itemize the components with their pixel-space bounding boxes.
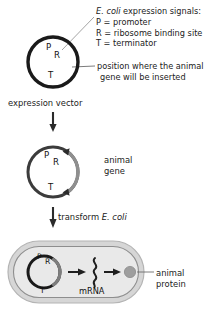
- mrna-label: mRNA: [79, 286, 104, 296]
- expression-vector-diagram: E. coli expression signals: P = promoter…: [0, 0, 207, 320]
- transform-step-label: transform E. coli: [58, 212, 127, 222]
- stage2-label-promoter: P: [44, 150, 49, 160]
- transform-verb: transform: [58, 212, 102, 222]
- transform-species: E. coli: [102, 212, 127, 222]
- stage1-label-ribosome-binding-site: R: [54, 50, 60, 60]
- stage2-label-ribosome-binding-site: R: [53, 157, 59, 167]
- animal-gene-arc: [66, 151, 78, 193]
- leader-line-insert-site: [72, 66, 95, 67]
- animal-protein-label-line-1: animal: [156, 268, 186, 279]
- leader-line-signals: [62, 17, 94, 50]
- stage1-label-terminator: T: [48, 70, 53, 80]
- stage3-label-ribosome-binding-site: R: [45, 257, 50, 266]
- stage3-label-terminator: T: [40, 286, 45, 295]
- stage3-label-promoter: P: [37, 252, 42, 261]
- process-arrow-1: [49, 112, 56, 132]
- animal-gene-label: animal gene: [104, 155, 132, 177]
- animal-gene-label-line-1: animal: [104, 155, 132, 166]
- process-arrow-2: [49, 207, 56, 228]
- stage2-label-terminator: T: [48, 182, 53, 192]
- animal-gene-label-line-2: gene: [104, 166, 132, 177]
- animal-protein-label-line-2: protein: [156, 279, 186, 290]
- expression-vector-caption: expression vector: [8, 98, 82, 108]
- stage1-label-promoter: P: [46, 42, 51, 52]
- animal-protein-blob: [124, 266, 135, 277]
- animal-protein-label: animal protein: [156, 268, 186, 290]
